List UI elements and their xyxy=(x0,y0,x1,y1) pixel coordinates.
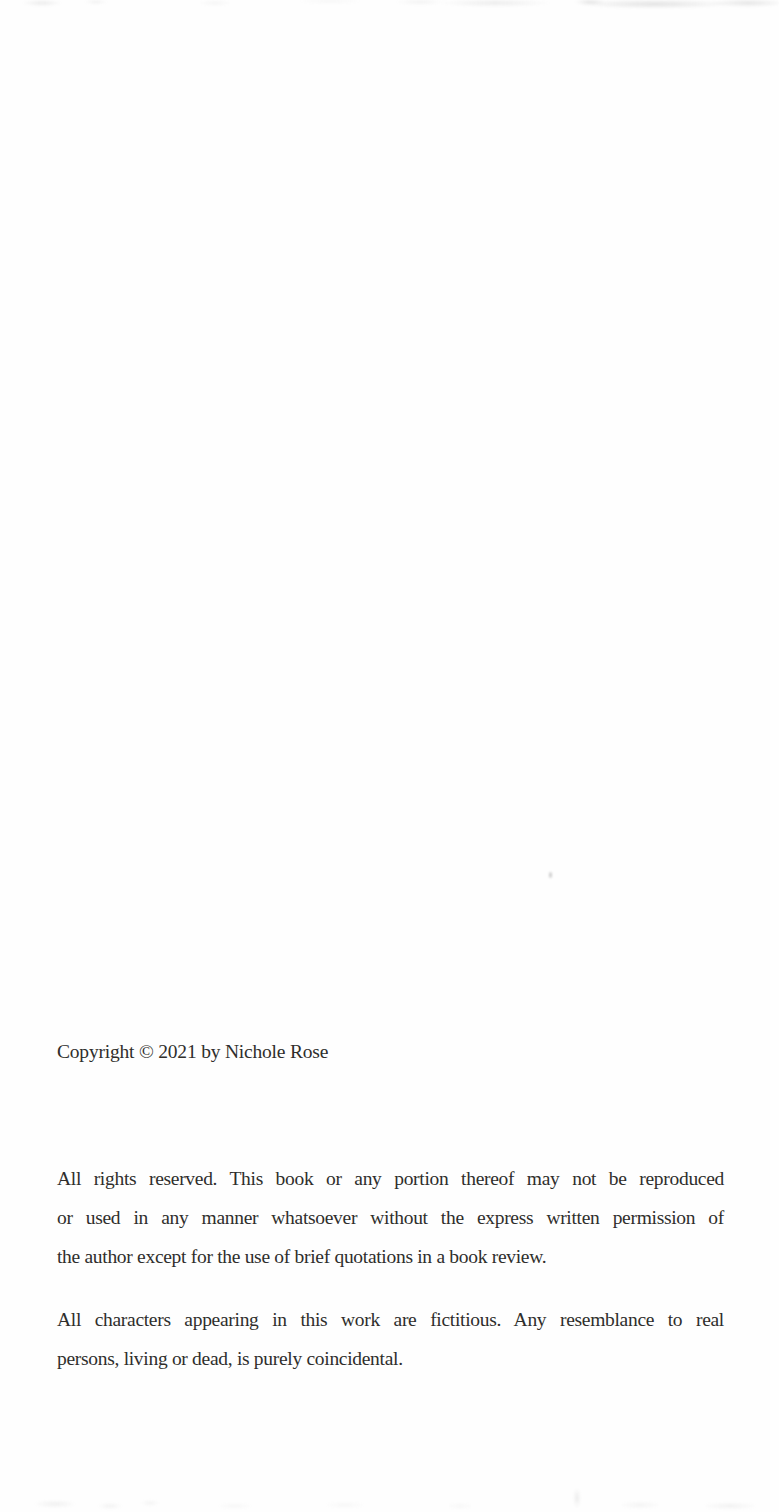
text-line: the author except for the use of brief q… xyxy=(57,1237,724,1276)
copyright-line: Copyright © 2021 by Nichole Rose xyxy=(57,1032,724,1071)
text-line: persons, living or dead, is purely coinc… xyxy=(57,1339,724,1378)
text-line: or used in any manner whatsoever without… xyxy=(57,1198,724,1237)
scan-noise-bottom-edge xyxy=(0,1488,779,1512)
book-copyright-page: Copyright © 2021 by Nichole Rose All rig… xyxy=(0,0,779,1512)
dust-speck xyxy=(549,872,552,878)
text-line: All characters appearing in this work ar… xyxy=(57,1300,724,1339)
scan-noise-top-edge xyxy=(0,0,779,15)
rights-reserved-paragraph: All rights reserved. This book or any po… xyxy=(57,1159,724,1276)
fictitious-disclaimer-paragraph: All characters appearing in this work ar… xyxy=(57,1300,724,1378)
text-line: All rights reserved. This book or any po… xyxy=(57,1159,724,1198)
